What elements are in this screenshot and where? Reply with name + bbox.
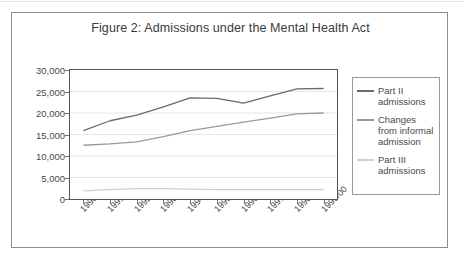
y-axis-tick-mark (65, 70, 69, 71)
legend-item[interactable]: Changes from informal admission (357, 114, 435, 147)
legend-item[interactable]: Part II admissions (357, 85, 435, 107)
legend-line-swatch-icon (357, 119, 374, 121)
figure-frame: Figure 2: Admissions under the Mental He… (11, 12, 448, 248)
y-axis-tick-mark (65, 199, 69, 200)
legend-item-label: Changes from informal admission (378, 114, 435, 147)
legend-item[interactable]: Part III admissions (357, 154, 435, 176)
series-line (83, 88, 323, 130)
legend-line-swatch-icon (357, 90, 374, 92)
plot-area (69, 69, 338, 200)
y-axis-tick-mark (65, 135, 69, 136)
page-edge-artifact (0, 1, 463, 2)
legend-item-label: Part II admissions (378, 85, 435, 107)
series-line (83, 189, 323, 191)
y-axis-tick-mark (65, 178, 69, 179)
chart-legend: Part II admissionsChanges from informal … (352, 77, 440, 195)
series-line (83, 113, 323, 145)
y-axis-tick-mark (65, 92, 69, 93)
legend-line-swatch-icon (357, 159, 374, 161)
y-axis-tick-mark (65, 113, 69, 114)
chart-series-svg (70, 70, 337, 199)
y-axis-tick-mark (65, 156, 69, 157)
legend-item-label: Part III admissions (378, 154, 435, 176)
